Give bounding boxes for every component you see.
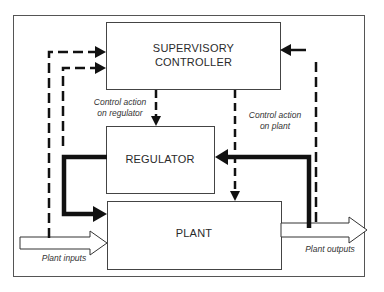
plant-inputs-arrow [20, 231, 107, 255]
supervisory-controller-label: SUPERVISORY CONTROLLER [106, 41, 281, 69]
supervisory-label-line2: CONTROLLER [106, 55, 281, 69]
control-regulator-line1: Control action [88, 97, 152, 108]
control-action-regulator-label: Control action on regulator [88, 97, 152, 119]
plant-outputs-label: Plant outputs [300, 244, 360, 255]
control-plant-line2: on plant [243, 121, 307, 132]
plant-label: PLANT [107, 226, 281, 240]
plant-inputs-label: Plant inputs [36, 253, 92, 264]
supervisory-label-line1: SUPERVISORY [106, 41, 281, 55]
control-regulator-line2: on regulator [88, 108, 152, 119]
control-plant-line1: Control action [243, 110, 307, 121]
control-action-plant-label: Control action on plant [243, 110, 307, 132]
plant-outputs-arrow [281, 217, 367, 243]
dashed-control-action-on-plant [230, 90, 240, 201]
dashed-control-action-on-regulator [151, 90, 161, 126]
regulator-label: REGULATOR [106, 152, 214, 166]
thick-regulator-to-plant [64, 157, 107, 222]
